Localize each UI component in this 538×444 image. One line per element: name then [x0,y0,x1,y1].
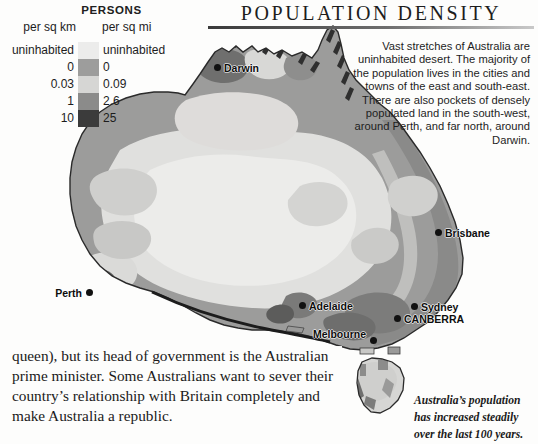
city-label-darwin: Darwin [224,62,259,74]
legend-row: 0 0 [0,59,195,76]
legend-unit-per-sq-mi: per sq mi [102,20,151,34]
city-marker-perth[interactable] [86,289,93,296]
city-marker-canberra[interactable] [394,315,401,322]
population-caption: Australia’s population has increased ste… [414,392,536,443]
legend-value-km: 0.03 [0,76,74,93]
legend-unit-per-sq-km: per sq km [0,20,76,34]
legend-swatch-10 [78,110,99,127]
title-divider [208,26,534,29]
legend-row: 1 2.6 [0,93,195,110]
city-label-canberra: CANBERRA [404,313,464,325]
legend-swatch-uninhabited [78,42,99,59]
city-marker-brisbane[interactable] [435,229,442,236]
legend: PERSONS per sq km per sq mi uninhabited … [0,4,195,127]
legend-value-km: 0 [0,59,74,76]
city-label-adelaide: Adelaide [309,300,353,312]
legend-swatch-003 [78,76,99,93]
flinders-island [388,347,400,354]
map-page: Darwin Brisbane Perth Adelaide Sydney CA… [0,0,538,444]
legend-row: 0.03 0.09 [0,76,195,93]
page-title: POPULATION DENSITY [208,2,534,24]
legend-value-mi: 0.09 [103,76,126,93]
city-marker-adelaide[interactable] [299,302,306,309]
legend-row: uninhabited uninhabited [0,42,195,59]
legend-value-mi: 2.6 [103,93,120,110]
city-label-perth: Perth [55,287,82,299]
legend-value-mi: 0 [103,59,110,76]
map-description: Vast stretches of Australia are uninhabi… [348,40,530,147]
legend-value-mi: uninhabited [103,42,165,59]
city-label-melbourne: Melbourne [313,328,366,340]
city-marker-melbourne[interactable] [370,337,377,344]
legend-row: 10 25 [0,110,195,127]
legend-unit-headers: per sq km per sq mi [0,20,195,38]
legend-swatch-0 [78,59,99,76]
legend-value-km: uninhabited [0,42,74,59]
city-label-brisbane: Brisbane [445,227,490,239]
legend-swatch-1 [78,93,99,110]
tasmania-fills [350,350,414,420]
city-label-sydney: Sydney [421,301,458,313]
city-marker-sydney[interactable] [411,303,418,310]
body-paragraph: queen), but its head of government is th… [12,346,342,426]
title-block: POPULATION DENSITY [208,2,534,29]
legend-value-km: 1 [0,93,74,110]
legend-value-km: 10 [0,110,74,127]
legend-rows: uninhabited uninhabited 0 0 0.03 0.09 1 … [0,42,195,127]
king-island [360,348,374,354]
city-marker-darwin[interactable] [214,64,221,71]
legend-heading: PERSONS [0,4,195,16]
legend-value-mi: 25 [103,110,116,127]
